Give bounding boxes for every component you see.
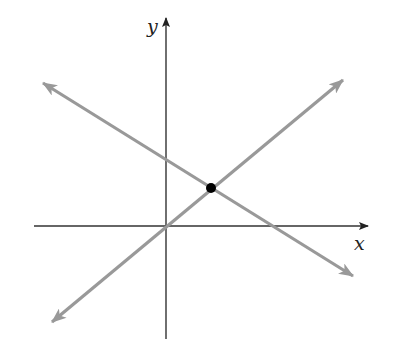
coordinate-diagram: y x bbox=[0, 0, 397, 361]
intersection-point bbox=[206, 183, 216, 193]
y-axis-label: y bbox=[146, 15, 158, 37]
x-axis-label: x bbox=[354, 232, 365, 254]
